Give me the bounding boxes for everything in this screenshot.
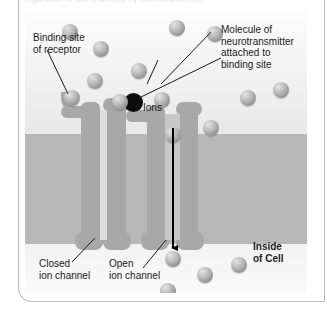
ion-sphere xyxy=(112,94,128,110)
closed-channel-pore xyxy=(100,110,107,240)
open-channel-protein-right xyxy=(180,106,198,250)
label-closed-ion-channel: Closed ion channel xyxy=(39,258,90,281)
open-channel-protein-left xyxy=(147,106,165,250)
binding-site-arm-closed xyxy=(61,106,95,118)
ion-sphere xyxy=(160,283,176,293)
ion-sphere xyxy=(165,251,181,267)
closed-channel-foot-right xyxy=(103,232,131,250)
label-inside-of-cell: Inside of Cell xyxy=(253,241,284,264)
closed-channel-protein-left xyxy=(81,102,100,250)
closed-channel-protein-right xyxy=(107,102,126,250)
label-open-ion-channel: Open ion channel xyxy=(109,258,160,281)
ion-sphere xyxy=(169,20,185,36)
label-ions: Ions xyxy=(143,102,162,114)
ion-sphere xyxy=(203,120,219,136)
ion-sphere xyxy=(93,41,109,57)
ion-sphere xyxy=(165,127,181,143)
ion-sphere xyxy=(197,267,213,283)
label-neurotransmitter-molecule: Molecule of neurotransmitter attached to… xyxy=(221,24,294,70)
ion-channel-diagram: Binding site of receptor Ions Molecule o… xyxy=(25,10,307,293)
ion-sphere xyxy=(64,90,80,106)
ion-sphere xyxy=(131,63,147,79)
closed-channel-foot-left xyxy=(75,232,103,250)
ion-sphere xyxy=(240,90,256,106)
ion-sphere xyxy=(231,257,247,273)
ion-sphere xyxy=(273,82,289,98)
label-binding-site-of-receptor: Binding site of receptor xyxy=(33,32,85,55)
screenshot-root: regulation of ion channels by neurotrans… xyxy=(0,0,327,322)
open-channel-foot-right xyxy=(176,232,204,250)
ion-sphere xyxy=(87,73,103,89)
